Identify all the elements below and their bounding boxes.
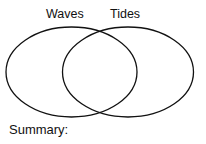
- summary-label: Summary:: [9, 123, 68, 137]
- venn-circle-waves: [6, 27, 137, 117]
- set-label-tides: Tides: [110, 7, 140, 21]
- set-label-waves: Waves: [46, 7, 84, 21]
- venn-circle-tides: [63, 27, 194, 117]
